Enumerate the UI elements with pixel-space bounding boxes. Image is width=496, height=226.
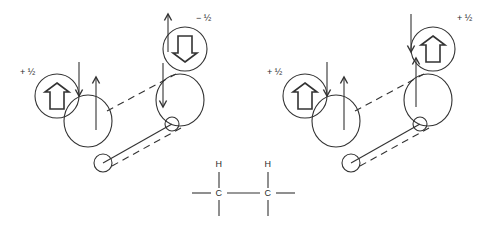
- carbon-left: C: [216, 188, 223, 198]
- left-panel-left-spin-circle: [35, 74, 79, 118]
- left-panel-left-spin-label: + ½: [20, 67, 36, 77]
- right-panel-lower-dashed-line: [360, 128, 429, 166]
- right-panel-solid-bond-line: [351, 124, 420, 163]
- right-panel-left-down-arrow: [323, 62, 330, 96]
- diagram-canvas: + ½− ½+ ½+ ½HHCC: [0, 0, 496, 226]
- left-panel-right-spin-label: − ½: [196, 13, 212, 23]
- left-panel-left-down-arrow: [75, 62, 82, 96]
- right-panel-right-orbital-lobe: [404, 74, 452, 126]
- hydrogen-right: H: [265, 159, 272, 169]
- right-panel-right-spin-label: + ½: [457, 13, 473, 23]
- right-panel-left-spin-label: + ½: [267, 67, 283, 77]
- hydrogen-left: H: [216, 159, 223, 169]
- right-panel-right-spin-circle: [411, 27, 455, 71]
- ethane-fragment-skeletal-formula: HHCC: [192, 159, 295, 216]
- left-panel-lower-dashed-line: [112, 128, 181, 166]
- carbon-right: C: [265, 188, 272, 198]
- antiperiplanar-opposite-spin-conformer: + ½− ½: [20, 13, 212, 172]
- left-panel-solid-bond-line: [103, 124, 172, 163]
- right-panel-right-down-arrow: [407, 14, 414, 52]
- left-panel-right-spin-circle: [163, 27, 207, 71]
- molecular-spin-diagram: + ½− ½+ ½+ ½HHCC: [0, 0, 496, 226]
- right-panel-left-spin-circle: [283, 74, 327, 118]
- antiperiplanar-parallel-spin-conformer: + ½+ ½: [267, 13, 473, 172]
